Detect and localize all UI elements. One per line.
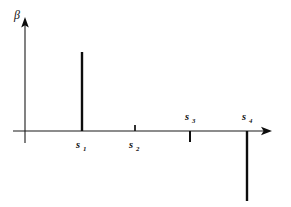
impulse-diagram: β s 1 s 2 s 3 s 4 <box>0 0 291 207</box>
tick-subscript-s4: 4 <box>248 117 253 124</box>
tick-subscript-s1: 1 <box>83 145 86 152</box>
tick-subscript-s2: 2 <box>135 145 140 152</box>
beta-axis-label: β <box>13 8 20 22</box>
tick-subscript-s3: 3 <box>191 117 196 124</box>
tick-label-s2: s <box>128 139 133 150</box>
tick-label-s1: s <box>75 139 80 150</box>
tick-label-s3: s <box>184 111 189 122</box>
tick-label-s4: s <box>241 111 246 122</box>
